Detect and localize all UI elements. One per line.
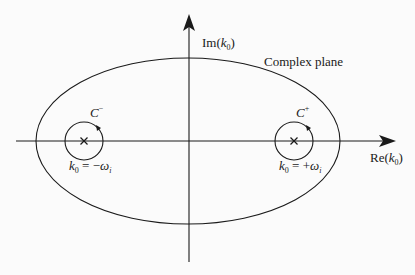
contour-sup: + — [305, 104, 310, 113]
real-axis-label: Re(k0) — [370, 151, 403, 164]
contour-c-minus-direction-arrow-icon — [96, 125, 101, 131]
omega: ω — [310, 158, 319, 173]
equals: = — [289, 158, 303, 173]
contour-c-minus-label: C− — [90, 106, 103, 119]
axis-func: Re — [370, 150, 384, 165]
contour-name: C — [90, 105, 99, 120]
paren-close: ) — [399, 150, 403, 165]
complex-plane-diagram: Im(k0) Complex plane Re(k0) C− C+ k0 = −… — [0, 0, 415, 275]
contour-c-plus-label: C+ — [296, 106, 309, 119]
pole-right-label: k0 = +ωi — [279, 159, 321, 172]
pole-left-label: k0 = −ωi — [69, 159, 111, 172]
contour-sup: − — [99, 104, 104, 113]
omega: ω — [100, 158, 109, 173]
region-label-text: Complex plane — [264, 54, 343, 69]
axis-func: Im — [202, 35, 216, 50]
sign: − — [93, 158, 100, 173]
equals: = — [79, 158, 93, 173]
contour-c-plus-direction-arrow-icon — [306, 125, 311, 131]
paren-close: ) — [231, 35, 235, 50]
imaginary-axis-label: Im(k0) — [202, 36, 235, 49]
omega-sub: i — [109, 166, 111, 175]
contour-name: C — [296, 105, 305, 120]
omega-sub: i — [319, 166, 321, 175]
sign: + — [303, 158, 310, 173]
complex-plane-label: Complex plane — [264, 55, 343, 68]
